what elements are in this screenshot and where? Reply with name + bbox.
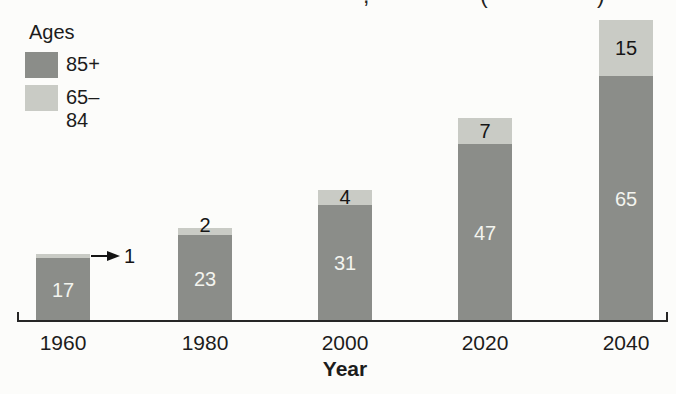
cropped-title-fragment: , [363,0,369,7]
x-tick-label-2000: 2000 [300,331,390,355]
bar-value-label: 65 [599,188,653,210]
bar-value-label: 31 [318,252,372,274]
legend-label-65-84: 65–84 [66,86,99,132]
x-tick-label-2040: 2040 [581,331,671,355]
legend-swatch-85plus [25,52,58,78]
callout-arrow-head [107,251,120,261]
bar-segment-65–84-1960 [36,254,90,258]
x-axis-left-end-tick [17,312,19,321]
legend-title: Ages [29,21,75,44]
bar-value-label: 7 [458,120,512,142]
legend-label-85plus: 85+ [66,53,100,76]
cropped-title: , ( ) [0,0,676,9]
legend-swatch-65-84 [25,85,58,111]
bar-value-label: 15 [599,37,653,59]
x-tick-label-1980: 1980 [160,331,250,355]
callout-value-label: 1 [124,245,135,268]
cropped-title-fragment: ( [480,0,488,7]
bar-value-label: 4 [318,186,372,208]
bar-value-label: 47 [458,222,512,244]
stacked-bar-chart-figure: , ( ) Ages 85+ 65–84 1711960232198031420… [0,0,676,394]
cropped-title-fragment: ) [597,0,605,7]
bar-value-label: 23 [178,268,232,290]
x-axis-right-end-tick [666,312,668,321]
bar-value-label: 17 [36,279,90,301]
bar-value-label: 2 [178,214,232,236]
x-tick-label-2020: 2020 [440,331,530,355]
x-axis-line [17,320,668,322]
x-axis-title: Year [295,357,395,381]
x-tick-label-1960: 1960 [18,331,108,355]
